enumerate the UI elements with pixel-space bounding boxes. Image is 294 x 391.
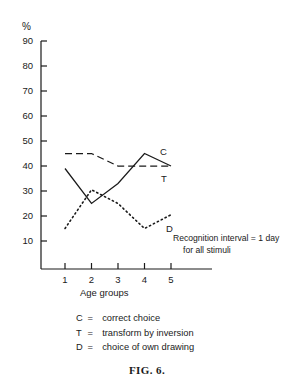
- y-tick-label-40: 40: [22, 160, 33, 171]
- annotation-line-2: for all stimuli: [183, 245, 231, 255]
- y-tick-label-50: 50: [22, 135, 33, 146]
- x-axis: 12345: [41, 263, 212, 285]
- legend-equals-d: =: [88, 340, 100, 355]
- x-tick-label-3: 3: [115, 274, 120, 285]
- legend: C = correct choice T = transform by inve…: [76, 311, 194, 355]
- y-axis: 908070605040302010: [22, 35, 47, 269]
- y-tick-label-20: 20: [22, 210, 33, 221]
- legend-equals-c: =: [88, 311, 100, 326]
- legend-description-t: transform by inversion: [102, 326, 193, 341]
- series-lines: [65, 154, 171, 229]
- legend-key-t: T: [76, 326, 85, 341]
- annotation-line-1: Recognition interval = 1 day: [173, 233, 280, 243]
- series-label-c: C: [160, 146, 167, 157]
- series-label-d: D: [166, 223, 173, 234]
- x-tick-label-4: 4: [142, 274, 147, 285]
- y-tick-label-90: 90: [22, 35, 33, 46]
- legend-item-t: T = transform by inversion: [76, 326, 194, 341]
- y-tick-label-80: 80: [22, 60, 33, 71]
- y-tick-label-10: 10: [22, 235, 33, 246]
- series-line-c: [65, 154, 171, 204]
- series-line-t: [65, 154, 171, 167]
- x-tick-label-5: 5: [168, 274, 173, 285]
- series-line-d: [65, 190, 171, 229]
- legend-item-d: D = choice of own drawing: [76, 340, 194, 355]
- figure-container: % 908070605040302010 12345 C T D Recogni…: [0, 0, 294, 391]
- x-tick-label-1: 1: [62, 274, 67, 285]
- y-tick-label-30: 30: [22, 185, 33, 196]
- figure-caption: FIG. 6.: [0, 364, 294, 376]
- legend-key-c: C: [76, 311, 85, 326]
- x-tick-label-2: 2: [89, 274, 94, 285]
- y-tick-label-60: 60: [22, 110, 33, 121]
- legend-description-d: choice of own drawing: [102, 340, 194, 355]
- y-tick-label-70: 70: [22, 85, 33, 96]
- y-axis-unit-label: %: [22, 21, 31, 32]
- legend-description-c: correct choice: [102, 311, 160, 326]
- x-axis-title: Age groups: [80, 287, 129, 298]
- series-label-t: T: [161, 173, 167, 184]
- legend-key-d: D: [76, 340, 85, 355]
- legend-item-c: C = correct choice: [76, 311, 194, 326]
- legend-equals-t: =: [88, 326, 100, 341]
